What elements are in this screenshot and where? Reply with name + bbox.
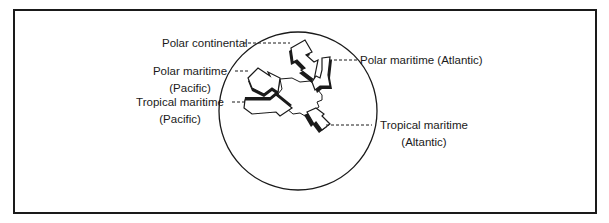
arrow-polar-maritime-pacific (248, 68, 280, 97)
label-tropical-maritime-atlantic: Tropical maritime (Altantic) (372, 118, 476, 149)
label-tropical-maritime-pacific-line2: (Pacific) (128, 112, 232, 126)
label-polar-maritime-pacific: Polar maritime (Pacific) (147, 64, 233, 95)
air-mass-diagram (0, 0, 609, 223)
label-tropical-maritime-pacific-line1: Tropical maritime (128, 95, 232, 109)
label-polar-maritime-pacific-line2: (Pacific) (147, 81, 233, 95)
label-tropical-maritime-atlantic-line1: Tropical maritime (372, 118, 476, 132)
label-polar-maritime-atlantic: Polar maritime (Atlantic) (360, 53, 483, 67)
label-polar-continental: Polar continental (162, 36, 248, 50)
arrow-tropical-maritime-atlantic (304, 108, 330, 133)
label-tropical-maritime-pacific: Tropical maritime (Pacific) (128, 95, 232, 126)
arrow-polar-continental (289, 40, 318, 83)
label-tropical-maritime-atlantic-line2: (Altantic) (372, 135, 476, 149)
label-polar-maritime-pacific-line1: Polar maritime (147, 64, 233, 78)
